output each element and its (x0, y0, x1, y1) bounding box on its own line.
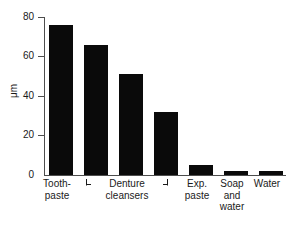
y-tick-label-60: 60 (0, 51, 34, 61)
bar-denture-2 (119, 74, 143, 175)
x-label-exp-paste: Exp. paste (177, 178, 217, 201)
bar-exp-paste (189, 165, 213, 175)
y-tick-label-40: 40 (0, 91, 34, 101)
bar-denture-3 (154, 112, 178, 175)
x-label-toothpaste: Tooth- paste (37, 178, 77, 201)
bar-chart: μm 80 60 40 20 0 Tooth- paste Denture cl… (0, 0, 290, 228)
plot-area (44, 17, 288, 175)
x-axis-line (44, 175, 286, 176)
y-tick-label-20: 20 (0, 130, 34, 140)
bar-denture-1 (84, 45, 108, 175)
x-label-soap-and-water: Soap and water (212, 178, 252, 213)
bar-water (259, 171, 283, 175)
x-label-water: Water (247, 178, 287, 190)
bar-toothpaste (49, 25, 73, 175)
bar-soap-and-water (224, 171, 248, 175)
x-label-denture: Denture cleansers (97, 178, 157, 201)
y-tick-label-80: 80 (0, 12, 34, 22)
y-tick-label-0: 0 (0, 170, 34, 180)
